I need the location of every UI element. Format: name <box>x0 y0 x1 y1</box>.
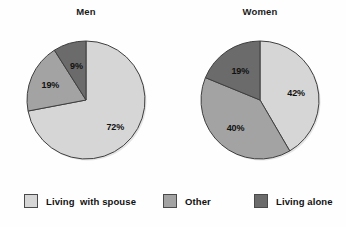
pie-women-svg <box>196 36 324 164</box>
legend-swatch-other <box>163 194 177 208</box>
legend-swatch-living-alone <box>254 194 268 208</box>
legend-item-living-with-spouse: Living with spouse <box>24 192 136 210</box>
chart-title-women: Women <box>224 6 296 17</box>
chart-title-men: Men <box>55 6 117 17</box>
pie-chart-women: 42%40%19% <box>196 36 324 164</box>
legend-item-other: Other <box>163 192 211 210</box>
legend-label-living-alone: Living alone <box>276 196 333 207</box>
legend-label-other: Other <box>185 196 211 207</box>
pie-men-svg <box>22 36 150 164</box>
legend-label-living-with-spouse: Living with spouse <box>46 196 136 207</box>
pie-chart-men: 72%19%9% <box>22 36 150 164</box>
legend-swatch-living-with-spouse <box>24 194 38 208</box>
legend: Living with spouse Other Living alone <box>0 188 346 218</box>
pie-chart-figure: Men Women 72%19%9% 42%40%19% Living with… <box>0 0 346 227</box>
legend-item-living-alone: Living alone <box>254 192 333 210</box>
